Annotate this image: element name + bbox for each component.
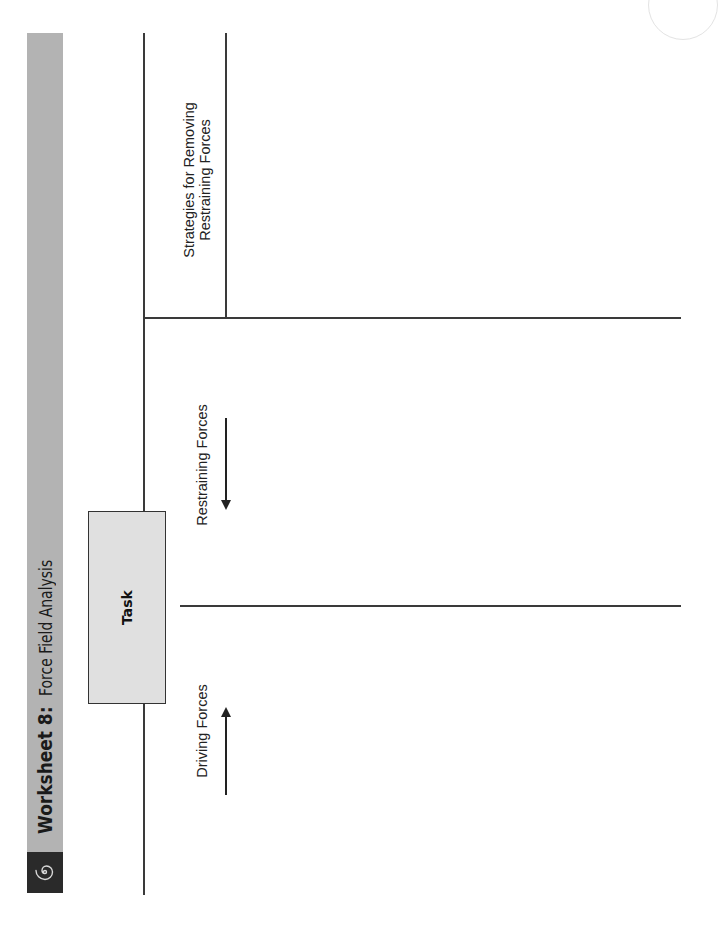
driving-forces-label: Driving Forces — [194, 656, 210, 806]
diagram-baseline — [143, 33, 145, 895]
driving-arrow-shaft — [225, 715, 227, 795]
column-divider-forces — [180, 606, 681, 608]
worksheet-number: Worksheet 8: — [27, 707, 63, 834]
corner-circle-decoration — [648, 0, 718, 40]
strategies-label: Strategies for Removing Restraining Forc… — [181, 90, 213, 270]
restraining-forces-label: Restraining Forces — [194, 390, 210, 540]
task-box[interactable]: Task — [88, 511, 166, 704]
strategies-label-line2: Restraining Forces — [197, 90, 213, 270]
worksheet-subtitle: Force Field Analysis — [28, 559, 64, 695]
column-divider-strategies — [143, 318, 681, 320]
strategies-header-line — [225, 33, 227, 319]
spiral-icon — [32, 860, 58, 886]
strategies-label-line1: Strategies for Removing — [181, 90, 197, 270]
task-label: Task — [119, 590, 135, 625]
logo-box — [27, 852, 63, 893]
restraining-arrow-shaft — [225, 418, 227, 502]
arrow-right-icon — [221, 707, 231, 717]
page-title: Worksheet 8: Force Field Analysis — [27, 529, 63, 834]
